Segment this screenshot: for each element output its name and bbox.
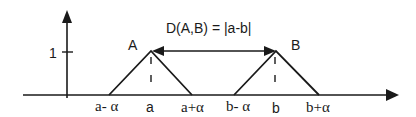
set-b-label: B xyxy=(291,38,300,52)
x-axis-arrow-icon xyxy=(386,89,399,101)
y-axis-arrow-icon xyxy=(62,10,72,23)
tick-label-a-plus-alpha: a+α xyxy=(181,100,204,115)
tick-label-b-minus-alpha: b- α xyxy=(226,99,250,114)
diagram-canvas xyxy=(0,0,416,117)
tick-label-b-plus-alpha: b+α xyxy=(306,100,330,115)
triangle-b xyxy=(234,51,319,95)
arrow-right-head-icon xyxy=(264,46,276,56)
set-a-label: A xyxy=(128,38,137,52)
distance-formula: D(A,B) = |a-b| xyxy=(166,21,251,35)
tick-label-a-minus-alpha: a- α xyxy=(95,99,118,114)
tick-label-a: a xyxy=(146,100,154,114)
y-tick-label: 1 xyxy=(49,46,57,60)
tick-label-b: b xyxy=(272,101,280,115)
